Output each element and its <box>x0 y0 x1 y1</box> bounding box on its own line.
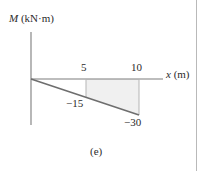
tick-label-10: 10 <box>131 62 142 73</box>
value-label-minus-15: −15 <box>66 98 83 109</box>
figure-caption: (e) <box>90 146 102 157</box>
moment-diagram-figure: M (kN·m) x (m) 5 10 −15 −30 (e) <box>0 0 206 171</box>
x-axis-label: x (m) <box>166 69 190 80</box>
tick-label-5: 5 <box>81 62 87 73</box>
value-label-minus-30: −30 <box>124 117 141 128</box>
y-axis-label: M (kN·m) <box>9 13 54 24</box>
y-axis-label-variable: M <box>9 12 18 24</box>
y-axis-label-units: (kN·m) <box>18 12 54 24</box>
moment-diagram-plot <box>0 0 206 171</box>
x-axis-label-units: (m) <box>171 68 190 80</box>
page-column-rule <box>196 0 197 171</box>
shaded-area-region <box>86 79 139 115</box>
